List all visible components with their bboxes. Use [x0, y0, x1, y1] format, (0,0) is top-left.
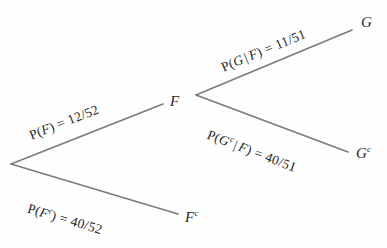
- node-label-G: G: [361, 14, 372, 31]
- complement-mark: c: [194, 208, 198, 218]
- node-label-F: F: [170, 93, 179, 110]
- node-letter: F: [170, 93, 179, 109]
- probability-tree-diagram: P(F) = 12/52 P(Fc) = 40/52 P(G|F) = 11/5…: [0, 0, 387, 248]
- node-letter: G: [361, 14, 372, 30]
- node-label-Gc: Gc: [356, 144, 371, 162]
- node-letter: G: [356, 145, 367, 161]
- node-letter: F: [185, 209, 194, 225]
- node-label-Fc: Fc: [185, 208, 198, 226]
- complement-mark: c: [367, 144, 371, 154]
